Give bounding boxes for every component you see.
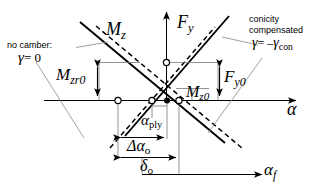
no-camber-gamma-label: γ= 0 xyxy=(18,50,41,66)
mz-zero-crossing-marker xyxy=(115,97,121,103)
alpha-ply-label: αply xyxy=(141,113,162,129)
mz0-label: Mz0 xyxy=(186,84,209,101)
fy0-label: Fy0 xyxy=(224,68,246,86)
mz-curve-label: Mz xyxy=(106,20,126,39)
fy-axis-label: Fy xyxy=(177,13,194,32)
delta-alpha-o-label: Δαo xyxy=(127,138,150,155)
fy-axis-crossing-marker xyxy=(163,59,169,65)
alpha-axis-label: α xyxy=(287,100,296,119)
no-camber-leader xyxy=(76,42,108,48)
alpha-f-axis-label: αf xyxy=(264,161,276,179)
delta-o-label: δo xyxy=(140,158,153,175)
conicity-label-line1: conicity xyxy=(249,14,279,25)
mz0-crossing-marker xyxy=(176,97,182,103)
conicity-gamma-label: γ= –γcon xyxy=(252,36,293,51)
dashed-intersection-marker xyxy=(149,97,155,103)
origin-marker xyxy=(164,98,170,104)
mzr0-label: Mzr0 xyxy=(56,66,85,84)
